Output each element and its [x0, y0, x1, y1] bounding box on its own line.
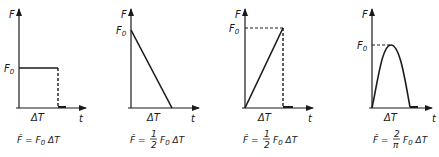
pulse-curve [372, 45, 410, 108]
svg-text:F̂ =: F̂ = [243, 134, 259, 145]
panel-half-sine-pulse: F F0 ΔT t F̂ = 2 π F0 ΔT [357, 9, 437, 150]
fraction-denominator: 2 [151, 140, 157, 150]
y-axis-label: F [121, 9, 127, 20]
duration-label: ΔT [257, 112, 272, 123]
svg-text:F0 ΔT: F0 ΔT [403, 135, 429, 147]
formula: F̂ = 2 π F0 ΔT [373, 129, 429, 150]
x-axis-label: t [432, 113, 437, 124]
fraction-denominator: π [393, 140, 399, 150]
fraction-denominator: 2 [264, 140, 270, 150]
level-label: F0 [229, 23, 240, 36]
fraction-numerator: 1 [264, 129, 270, 139]
pulse-curve [131, 30, 172, 108]
formula: F̂ = 1 2 F0 ΔT [243, 129, 299, 150]
fraction-numerator: 1 [151, 129, 157, 139]
svg-text:F̂ =: F̂ = [373, 134, 389, 145]
panel-increasing-triangle-pulse: F F0 ΔT t F̂ = 1 2 F0 ΔT [229, 9, 313, 150]
level-label: F0 [4, 63, 15, 76]
y-axis-label: F [9, 9, 15, 20]
x-axis-label: t [308, 113, 313, 124]
formula: F̂ = 1 2 F0 ΔT [130, 129, 186, 150]
y-axis-label: F [235, 9, 241, 20]
duration-label: ΔT [383, 112, 398, 123]
svg-text:F̂ =: F̂ = [130, 134, 146, 145]
level-label: F0 [357, 40, 368, 53]
x-axis-label: t [191, 113, 196, 124]
panel-decreasing-triangle-pulse: F F0 ΔT t F̂ = 1 2 F0 ΔT [116, 9, 199, 150]
impulse-diagrams: F F0 ΔT t F̂ = F0 ΔT F F0 ΔT t F̂ = 1 2 … [0, 0, 439, 157]
duration-label: ΔT [146, 112, 161, 123]
panel-rectangular-pulse: F F0 ΔT t F̂ = F0 ΔT [4, 9, 86, 147]
pulse-curve [245, 28, 283, 108]
y-axis-label: F [362, 9, 368, 20]
x-axis-label: t [79, 113, 84, 124]
svg-text:F0 ΔT: F0 ΔT [160, 135, 186, 147]
level-label: F0 [116, 25, 127, 38]
svg-text:F0 ΔT: F0 ΔT [273, 135, 299, 147]
fraction-numerator: 2 [394, 129, 400, 139]
formula: F̂ = F0 ΔT [17, 134, 61, 147]
duration-label: ΔT [30, 112, 45, 123]
